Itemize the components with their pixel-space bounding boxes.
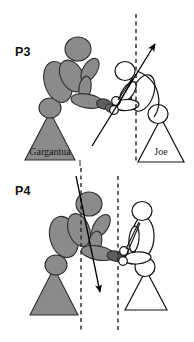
panel-label-p4: P4 (15, 184, 31, 198)
gargantua-p3-head (65, 37, 91, 61)
gargantua-p3-label: Gargantua (29, 146, 71, 157)
panel-label-p3: P3 (15, 45, 31, 59)
joe-p3-label: Joe (154, 146, 168, 157)
joe-p4-head (132, 202, 152, 221)
figure-root: Gargantua (0, 0, 194, 342)
diagram-canvas: Gargantua (0, 0, 194, 342)
gargantua-p4-hip (45, 255, 67, 275)
joe-p4-hand-lower (119, 257, 128, 266)
